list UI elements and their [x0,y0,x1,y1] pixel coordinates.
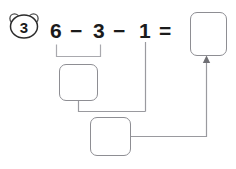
equation-equals-sign: = [159,20,171,41]
problem-number: 3 [9,12,39,40]
problem-number-label: 3 [9,12,39,40]
connector-step2-to-result [131,62,207,137]
grouping-bracket-icon [57,45,101,57]
answer-box-step2[interactable] [90,117,131,156]
worksheet-problem: 3 6 − 3 − 1 = [0,0,236,169]
answer-box-step1-value [60,65,97,100]
connector-step1-to-step2 [79,101,146,112]
equation-operand-2: 3 [93,20,105,41]
equation-operand-3: 1 [139,20,151,41]
equation-operand-1: 6 [50,20,62,41]
answer-box-step1[interactable] [59,64,98,101]
answer-box-step2-value [91,118,130,155]
equation-operator-1: − [70,20,82,41]
arrow-up-icon [203,56,210,64]
answer-box-result[interactable] [190,12,227,56]
equation-operator-2: − [113,20,125,41]
answer-box-result-value [191,13,226,55]
